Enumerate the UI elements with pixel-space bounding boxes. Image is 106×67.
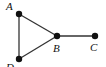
node-c xyxy=(92,33,98,39)
label-c: C xyxy=(90,41,98,53)
edge-a-b xyxy=(19,14,57,36)
label-d: D xyxy=(5,61,14,67)
node-d xyxy=(16,56,22,62)
edge-d-b xyxy=(19,36,57,59)
label-a: A xyxy=(5,0,13,12)
label-b: B xyxy=(53,42,60,54)
graph-diagram: A B C D xyxy=(0,0,106,67)
node-b xyxy=(54,33,60,39)
node-a xyxy=(16,11,22,17)
